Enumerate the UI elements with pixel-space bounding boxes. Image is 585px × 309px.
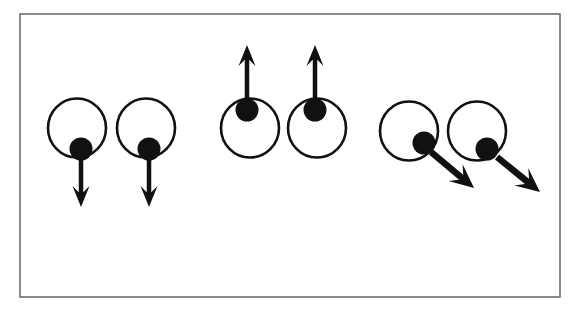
figure-root (0, 0, 585, 309)
oscillator-1-particle-dot (70, 138, 93, 161)
oscillator-3-particle-dot (236, 99, 259, 122)
oscillator-2-particle-dot (138, 138, 161, 161)
oscillator-6-particle-dot (476, 138, 499, 161)
oscillator-diagram-canvas (0, 0, 585, 309)
oscillator-5-particle-dot (413, 132, 436, 155)
oscillator-4-particle-dot (304, 99, 327, 122)
